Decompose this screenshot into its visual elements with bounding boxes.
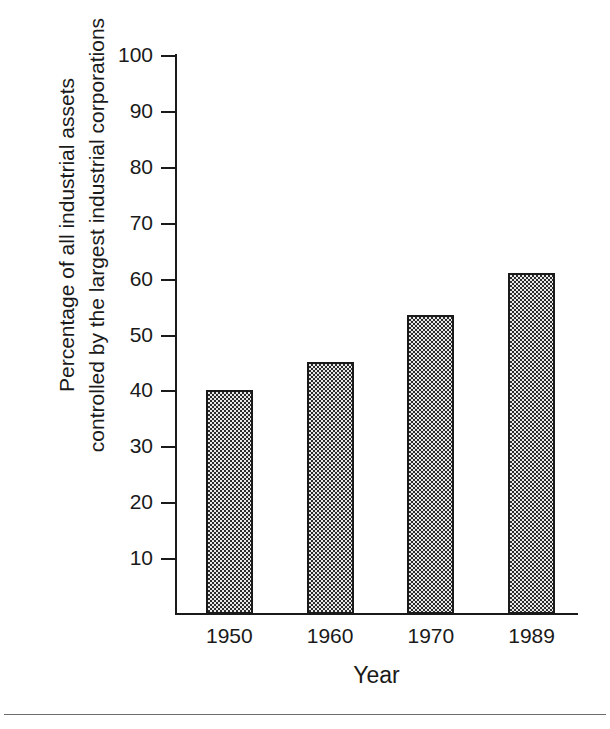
bar-1960 [307,362,354,614]
y-tick-label: 10 [130,547,153,568]
plot-area: 102030405060708090100 [175,55,578,614]
y-tick-label: 90 [130,100,153,121]
y-tick-label: 20 [130,491,153,512]
y-tick-label: 30 [130,435,153,456]
y-tick-mark [161,55,175,57]
bar-1950 [206,390,253,614]
x-tick-label-1989: 1989 [472,624,592,648]
y-tick-mark [161,111,175,113]
bar-1989 [508,273,555,614]
y-axis-title: Percentage of all industrial assets cont… [52,5,112,465]
y-tick-label: 60 [130,268,153,289]
page-bottom-rule [4,714,606,715]
bar-1970 [407,315,454,614]
y-tick-mark [161,502,175,504]
y-tick-label: 100 [118,44,153,65]
y-tick-mark [161,279,175,281]
y-axis-title-line-1: Percentage of all industrial assets [52,5,82,465]
y-tick-mark [161,223,175,225]
y-axis-title-line-2: controlled by the largest industrial cor… [82,5,112,465]
y-tick-mark [161,558,175,560]
y-tick-label: 80 [130,156,153,177]
y-tick-mark [161,335,175,337]
y-tick-label: 70 [130,212,153,233]
y-tick-label: 40 [130,379,153,400]
y-tick-mark [161,390,175,392]
figure-canvas: 102030405060708090100 1950196019701989 Y… [0,0,610,729]
y-tick-mark [161,446,175,448]
x-axis-title: Year [175,662,578,688]
y-tick-label: 50 [130,324,153,345]
y-tick-mark [161,167,175,169]
